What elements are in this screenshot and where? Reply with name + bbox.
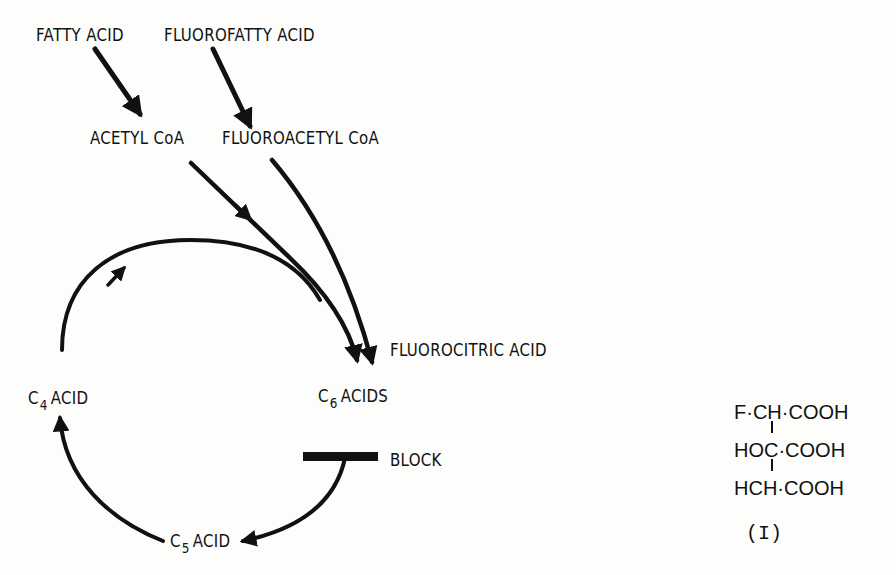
c6-suffix: ACIDS <box>341 386 388 407</box>
label-fluoroacetyl-coa: FLUOROACETYL CoA <box>222 128 379 149</box>
formula-2-left: HO <box>734 439 764 461</box>
label-block: BLOCK <box>390 450 442 471</box>
c6-subscript: 6 <box>330 395 338 411</box>
label-fatty-acid: FATTY ACID <box>36 25 124 46</box>
formula-1-left: F· <box>734 401 753 423</box>
c5-prefix: C <box>170 531 181 552</box>
label-fluorocitric-acid: FLUOROCITRIC ACID <box>390 340 547 361</box>
arrow-fatty-acid-to-acetyl-coa <box>95 49 140 114</box>
arrow-c5-to-c4 <box>60 418 163 541</box>
arrow-block-to-c5 <box>243 458 345 541</box>
formula-2-right: ·COOH <box>778 439 845 461</box>
label-acetyl-coa: ACETYL CoA <box>90 128 184 149</box>
formula-line-2: HOC·COOH <box>734 431 848 469</box>
arrow-fluorofatty-acid-to-fluoroacetyl-coa <box>213 49 250 126</box>
formula-2-center: C <box>764 439 778 461</box>
label-c5-acid: C5ACID <box>170 531 230 552</box>
formula-line-1: F·CH·COOH <box>734 393 848 431</box>
c6-prefix: C <box>318 386 329 407</box>
c4-prefix: C <box>28 388 39 409</box>
arrow-fluoroacetyl-coa-to-c6 <box>272 160 372 362</box>
formula-3-center: CH <box>748 477 777 499</box>
fluorocitric-acid-formula: F·CH·COOH HOC·COOH HCH·COOH <box>734 393 848 507</box>
pathway-diagram: FATTY ACID FLUOROFATTY ACID ACETYL CoA F… <box>0 0 896 575</box>
block-bar <box>303 452 378 461</box>
label-fluorofatty-acid: FLUOROFATTY ACID <box>164 25 315 46</box>
c5-subscript: 5 <box>182 540 190 556</box>
c5-suffix: ACID <box>193 531 231 552</box>
formula-label: (I) <box>746 522 782 545</box>
arrow-c4-to-c6 <box>62 240 320 350</box>
formula-line-3: HCH·COOH <box>734 469 848 507</box>
label-c4-acid: C4ACID <box>28 388 88 409</box>
formula-1-center: CH <box>753 401 782 423</box>
formula-3-left: H <box>734 477 748 499</box>
formula-1-right: ·COOH <box>782 401 849 423</box>
c4-suffix: ACID <box>51 388 89 409</box>
label-c6-acids: C6ACIDS <box>318 386 388 407</box>
arrow-acetyl-coa-to-c6 <box>191 163 357 360</box>
c4-subscript: 4 <box>40 397 48 413</box>
formula-3-right: ·COOH <box>777 477 844 499</box>
